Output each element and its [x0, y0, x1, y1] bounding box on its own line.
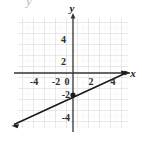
y-intercept-point	[70, 92, 75, 97]
y-axis-label: y	[68, 2, 75, 14]
x-tick-label-neg-2: -2	[52, 76, 60, 87]
x-tick-label-pos-2: 2	[89, 76, 94, 87]
x-axis-label: x	[129, 67, 136, 79]
y-tick-label-neg-4: -4	[62, 112, 70, 123]
origin-label: 0	[65, 76, 70, 87]
y-tick-label-pos-4: 4	[61, 34, 66, 45]
y-tick-label-pos-2: 2	[61, 56, 66, 67]
coordinate-graph-figure: y	[0, 0, 142, 141]
graph-canvas: -4 -2 0 2 4 4 2 -2 -4 x y	[0, 0, 142, 141]
y-tick-label-neg-2: -2	[62, 89, 70, 100]
x-tick-label-neg-4: -4	[30, 76, 38, 87]
x-tick-label-pos-4: 4	[111, 76, 116, 87]
